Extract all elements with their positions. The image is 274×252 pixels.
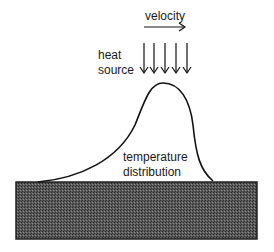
velocity-label: velocity xyxy=(145,9,185,23)
substrate-block xyxy=(16,182,257,239)
heat-source-label-line2: source xyxy=(98,63,134,77)
diagram-canvas xyxy=(0,0,274,252)
heat-source-arrows-icon xyxy=(140,43,191,73)
temperature-label-line2: distribution xyxy=(123,165,181,179)
heat-source-label-line1: heat xyxy=(98,48,121,62)
velocity-arrow-icon xyxy=(144,23,185,31)
temperature-label-line1: temperature xyxy=(123,150,188,164)
